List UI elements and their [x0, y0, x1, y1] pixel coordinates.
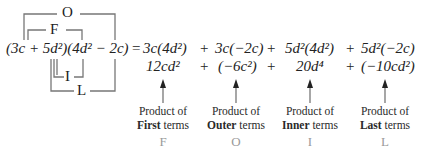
- label-last-rest: terms: [382, 119, 410, 131]
- arrow-last-icon: [382, 79, 388, 88]
- label-last-line1: Product of: [355, 104, 415, 118]
- label-outer-line2: Outer terms: [204, 118, 268, 132]
- row1-plus-1: +: [200, 40, 208, 57]
- row1-plus-3: +: [346, 40, 354, 57]
- inner-bracket-right: [74, 59, 83, 77]
- row2-plus-2: +: [267, 58, 275, 75]
- binomial-product-expression: (3c + 5d²)(4d² − 2c): [6, 40, 129, 57]
- foil-letter-l: L: [375, 134, 395, 150]
- arrow-outer-icon: [233, 79, 239, 88]
- label-inner-line2: Inner terms: [278, 118, 342, 132]
- label-last-bold: Last: [360, 119, 382, 131]
- foil-letter-o: O: [226, 134, 246, 150]
- bracket-label-last: L: [77, 82, 86, 99]
- row1-plus-2: +: [267, 40, 275, 57]
- foil-letter-f: F: [153, 134, 173, 150]
- row2-term-last: (−10cd²): [361, 58, 415, 75]
- label-first-bold: First: [137, 119, 161, 131]
- inner-bracket-left: [54, 59, 64, 77]
- label-first-line1: Product of: [133, 104, 193, 118]
- label-outer-bold: Outer: [207, 119, 236, 131]
- row2-term-outer: (−6c²): [218, 58, 257, 75]
- first-bracket-left: [28, 30, 46, 40]
- row1-term-inner: 5d²(4d²): [285, 40, 334, 57]
- label-inner-line1: Product of: [278, 104, 342, 118]
- last-bracket-right: [90, 59, 115, 91]
- row1-term-outer: 3c(−2c): [215, 40, 263, 57]
- foil-letter-i: I: [300, 134, 320, 150]
- label-inner-bold: Inner: [282, 119, 309, 131]
- equals-sign: =: [132, 40, 140, 57]
- label-first-line2: First terms: [133, 118, 193, 132]
- label-inner: Product of Inner terms: [278, 104, 342, 132]
- bracket-label-outer: O: [62, 4, 73, 21]
- label-last: Product of Last terms: [355, 104, 415, 132]
- label-outer-line1: Product of: [204, 104, 268, 118]
- row2-plus-3: +: [346, 58, 354, 75]
- row1-term-first: 3c(4d²): [143, 40, 187, 57]
- first-bracket-right: [66, 30, 82, 40]
- row2-plus-1: +: [200, 58, 208, 75]
- row1-term-last: 5d²(−2c): [361, 40, 415, 57]
- label-last-line2: Last terms: [355, 118, 415, 132]
- label-outer: Product of Outer terms: [204, 104, 268, 132]
- label-first-rest: terms: [161, 119, 189, 131]
- label-first: Product of First terms: [133, 104, 193, 132]
- label-inner-rest: terms: [310, 119, 338, 131]
- outer-bracket-right: [80, 14, 115, 40]
- bracket-label-inner: I: [65, 68, 70, 85]
- arrow-first-icon: [160, 79, 166, 88]
- arrow-inner-icon: [307, 79, 313, 88]
- bracket-label-first: F: [50, 21, 58, 38]
- row2-term-first: 12cd²: [146, 58, 180, 75]
- label-outer-rest: terms: [236, 119, 264, 131]
- row2-term-inner: 20d⁴: [296, 58, 324, 75]
